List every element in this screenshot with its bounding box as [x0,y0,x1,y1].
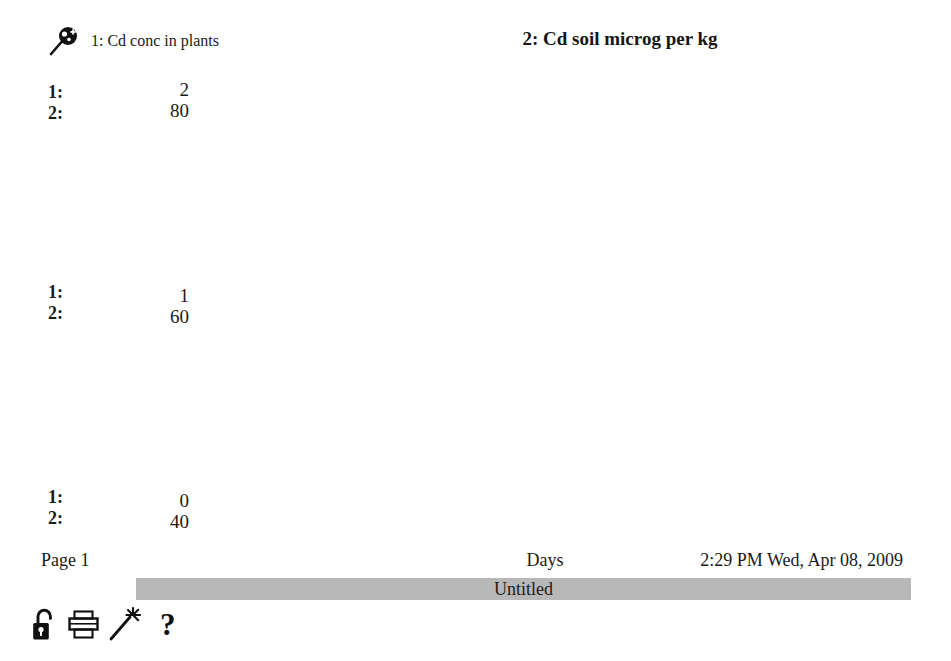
chart-legend: 1: Cd conc in plants 2: Cd soil microg p… [0,26,951,60]
y-tick-bottom-series1: 0 [143,490,189,511]
padlock-open-icon[interactable] [30,606,60,642]
page-label: Page 1 [41,550,90,571]
y-tick-top: 2 80 [143,79,189,121]
axis-scale-bottom: 1: 2: [48,487,63,529]
help-icon[interactable]: ? [160,608,176,642]
x-axis-title: Days [527,550,564,571]
y-tick-middle-series2: 60 [143,306,189,327]
series1-legend-label: 1: Cd conc in plants [91,32,219,50]
axis-scale-bottom-series1: 1: [48,487,63,508]
axis-scale-bottom-series2: 2: [48,508,63,529]
axis-scale-top-series1: 1: [48,82,63,103]
series2-legend-label: 2: Cd soil microg per kg [522,28,717,50]
axis-scale-middle-series1: 1: [48,282,63,303]
document-title-bar[interactable]: Untitled [136,578,911,600]
y-tick-middle: 1 60 [143,285,189,327]
magic-wand-icon[interactable] [108,606,142,642]
printer-icon[interactable] [66,606,102,642]
timestamp: 2:29 PM Wed, Apr 08, 2009 [700,550,903,571]
chart-canvas [196,89,895,517]
document-title: Untitled [136,578,911,600]
axis-scale-middle: 1: 2: [48,282,63,324]
y-tick-top-series1: 2 [143,79,189,100]
y-tick-middle-series1: 1 [143,285,189,306]
magnifier-pin-icon [48,26,82,56]
bottom-toolbar: ? [30,606,176,642]
chart-plot-area [196,89,895,517]
axis-scale-top-series2: 2: [48,103,63,124]
axis-scale-top: 1: 2: [48,82,63,124]
axis-scale-middle-series2: 2: [48,303,63,324]
y-tick-bottom: 0 40 [143,490,189,532]
y-tick-top-series2: 80 [143,100,189,121]
y-tick-bottom-series2: 40 [143,511,189,532]
series1-legend: 1: Cd conc in plants [48,26,219,56]
